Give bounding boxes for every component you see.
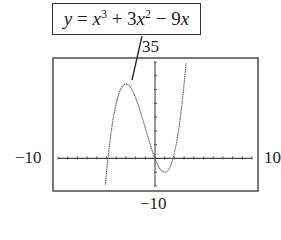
- ymax-label: 35: [142, 38, 159, 55]
- xmin-label: −10: [15, 149, 42, 166]
- ymin-label: −10: [140, 195, 167, 212]
- xmax-label: 10: [264, 149, 281, 166]
- axes: [58, 62, 252, 186]
- function-curve: [105, 63, 186, 185]
